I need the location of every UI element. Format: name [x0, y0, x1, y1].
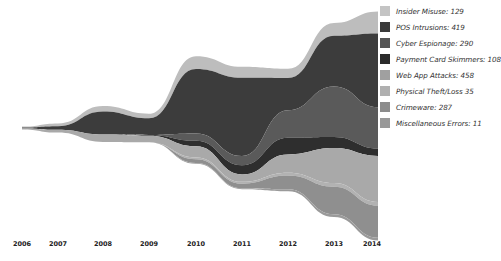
x-tick-2009: 2009 [140, 240, 158, 248]
legend-label: Physical Theft/Loss 35 [396, 87, 474, 96]
legend-label: Web App Attacks: 458 [396, 71, 474, 80]
legend-swatch [380, 102, 390, 112]
x-tick-2012: 2012 [279, 240, 297, 248]
x-tick-2014: 2014 [363, 240, 381, 248]
x-tick-2011: 2011 [233, 240, 251, 248]
streamgraph-chart [0, 0, 380, 261]
legend-item-miscellaneous-errors[interactable]: Miscellaneous Errors: 11 [380, 115, 495, 131]
legend-item-cyber-espionage[interactable]: Cyber Espionage: 290 [380, 35, 495, 51]
legend-swatch [380, 22, 390, 32]
legend-swatch [380, 38, 390, 48]
legend-item-pos-intrusions[interactable]: POS Intrusions: 419 [380, 19, 495, 35]
legend-label: Crimeware: 287 [396, 103, 452, 112]
legend-item-crimeware[interactable]: Crimeware: 287 [380, 99, 495, 115]
stream-layers [22, 11, 378, 240]
legend-label: Payment Card Skimmers: 108 [396, 55, 501, 64]
legend-label: Miscellaneous Errors: 11 [396, 119, 482, 128]
x-tick-2007: 2007 [49, 240, 67, 248]
chart-legend: Insider Misuse: 129 POS Intrusions: 419 … [380, 3, 495, 131]
legend-item-payment-card-skimmers[interactable]: Payment Card Skimmers: 108 [380, 51, 495, 67]
legend-swatch [380, 54, 390, 64]
legend-swatch [380, 70, 390, 80]
x-tick-2006: 2006 [13, 240, 31, 248]
legend-label: POS Intrusions: 419 [396, 23, 465, 32]
legend-swatch [380, 86, 390, 96]
x-tick-2013: 2013 [325, 240, 343, 248]
legend-item-physical-theft-loss[interactable]: Physical Theft/Loss 35 [380, 83, 495, 99]
legend-label: Cyber Espionage: 290 [396, 39, 473, 48]
x-tick-2010: 2010 [187, 240, 205, 248]
x-axis: 2006 2007 2008 2009 2010 2011 2012 2013 … [0, 240, 400, 260]
legend-item-web-app-attacks[interactable]: Web App Attacks: 458 [380, 67, 495, 83]
legend-item-insider-misuse[interactable]: Insider Misuse: 129 [380, 3, 495, 19]
legend-swatch [380, 118, 390, 128]
x-tick-2008: 2008 [94, 240, 112, 248]
legend-label: Insider Misuse: 129 [396, 7, 464, 16]
legend-swatch [380, 6, 390, 16]
